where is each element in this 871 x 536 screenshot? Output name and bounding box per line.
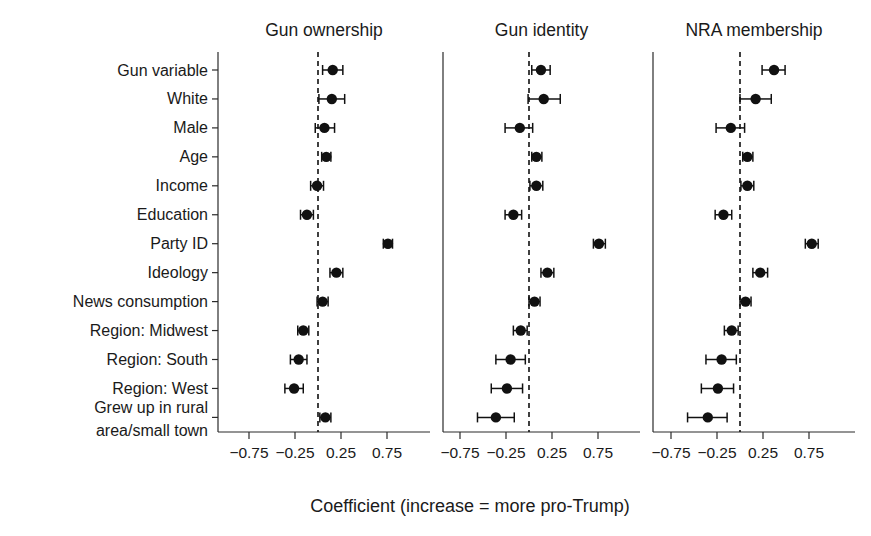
- x-tick-label-3-1: −0.25: [697, 444, 736, 461]
- point-estimate-3-4: [742, 181, 752, 191]
- point-estimate-1-0: [328, 65, 338, 75]
- coefficient-plot-svg: Gun ownership−0.75−0.250.250.75Gun ident…: [0, 0, 871, 536]
- point-estimate-1-4: [312, 181, 322, 191]
- panel-title-2: Gun identity: [495, 20, 589, 40]
- y-axis-label-2: Male: [173, 119, 208, 136]
- y-axis-label-4: Income: [156, 177, 209, 194]
- point-estimate-1-9: [298, 325, 308, 335]
- point-estimate-1-11: [289, 383, 299, 393]
- x-tick-label-3-2: 0.25: [748, 444, 778, 461]
- x-axis-caption: Coefficient (increase = more pro-Trump): [310, 496, 630, 516]
- y-axis-label-12: area/small town: [96, 422, 208, 439]
- y-axis-label-11: Region: West: [112, 380, 208, 397]
- point-estimate-2-3: [531, 152, 541, 162]
- y-axis-label-5: Education: [137, 206, 208, 223]
- point-estimate-3-0: [769, 65, 779, 75]
- point-estimate-1-6: [383, 239, 393, 249]
- point-estimate-2-12: [491, 412, 501, 422]
- point-estimate-2-8: [529, 296, 539, 306]
- y-axis-label-3: Age: [180, 148, 209, 165]
- point-estimate-2-1: [539, 94, 549, 104]
- point-estimate-2-11: [502, 383, 512, 393]
- x-tick-label-2-1: −0.25: [486, 444, 525, 461]
- x-tick-label-1-0: −0.75: [229, 444, 268, 461]
- point-estimate-3-11: [713, 383, 723, 393]
- point-estimate-2-4: [531, 181, 541, 191]
- point-estimate-2-5: [508, 210, 518, 220]
- y-axis-label-0: Gun variable: [117, 62, 208, 79]
- point-estimate-1-3: [321, 152, 331, 162]
- point-estimate-1-12: [320, 412, 330, 422]
- point-estimate-1-2: [319, 123, 329, 133]
- point-estimate-3-3: [742, 152, 752, 162]
- y-axis-label-6: Party ID: [150, 235, 208, 252]
- y-axis-label-10: Region: South: [107, 351, 208, 368]
- point-estimate-2-9: [516, 325, 526, 335]
- y-axis-label-9: Region: Midwest: [90, 322, 209, 339]
- point-estimate-1-8: [317, 296, 327, 306]
- x-tick-label-3-0: −0.75: [651, 444, 690, 461]
- point-estimate-3-5: [718, 210, 728, 220]
- point-estimate-2-10: [505, 354, 515, 364]
- y-axis-label-8: News consumption: [73, 293, 208, 310]
- point-estimate-3-6: [807, 239, 817, 249]
- point-estimate-3-7: [755, 267, 765, 277]
- point-estimate-1-5: [302, 210, 312, 220]
- point-estimate-3-12: [703, 412, 713, 422]
- y-axis-label-1: White: [167, 90, 208, 107]
- point-estimate-3-2: [726, 123, 736, 133]
- point-estimate-3-10: [716, 354, 726, 364]
- y-axis-label-7: Ideology: [148, 264, 209, 281]
- point-estimate-2-7: [542, 267, 552, 277]
- x-tick-label-2-0: −0.75: [440, 444, 479, 461]
- point-estimate-1-1: [327, 94, 337, 104]
- x-tick-label-1-1: −0.25: [275, 444, 314, 461]
- panel-title-1: Gun ownership: [265, 20, 383, 40]
- point-estimate-3-9: [727, 325, 737, 335]
- coefficient-plot-figure: Gun ownership−0.75−0.250.250.75Gun ident…: [0, 0, 871, 536]
- x-tick-label-2-3: 0.75: [583, 444, 613, 461]
- x-tick-label-1-3: 0.75: [372, 444, 402, 461]
- x-tick-label-1-2: 0.25: [326, 444, 356, 461]
- point-estimate-3-8: [740, 296, 750, 306]
- point-estimate-2-6: [594, 239, 604, 249]
- panel-title-3: NRA membership: [685, 20, 822, 40]
- point-estimate-1-10: [293, 354, 303, 364]
- point-estimate-2-2: [515, 123, 525, 133]
- x-tick-label-2-2: 0.25: [537, 444, 567, 461]
- y-axis-label-12: Grew up in rural: [94, 399, 208, 416]
- x-tick-label-3-3: 0.75: [794, 444, 824, 461]
- point-estimate-1-7: [331, 267, 341, 277]
- point-estimate-2-0: [536, 65, 546, 75]
- point-estimate-3-1: [750, 94, 760, 104]
